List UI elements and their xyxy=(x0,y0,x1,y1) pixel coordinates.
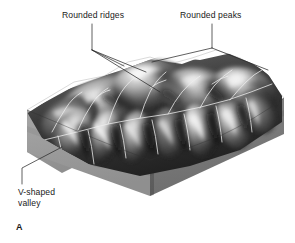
label-rounded-peaks: Rounded peaks xyxy=(180,10,242,21)
panel-letter: A xyxy=(16,222,23,233)
label-v-shaped-valley: V-shaped valley xyxy=(18,187,55,208)
label-rounded-ridges: Rounded ridges xyxy=(62,10,124,21)
